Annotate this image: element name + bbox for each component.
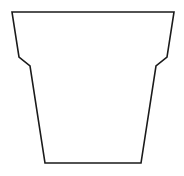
flower-pot-outline-icon xyxy=(12,12,174,163)
flower-pot-drawing xyxy=(0,0,184,176)
